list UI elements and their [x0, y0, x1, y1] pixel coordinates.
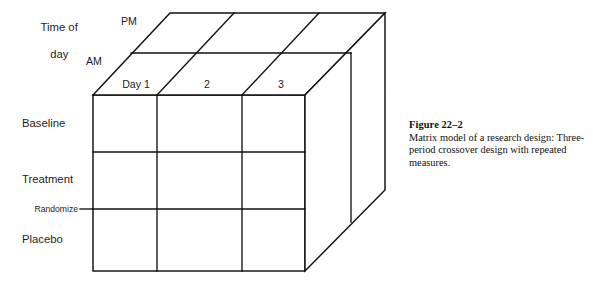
column-label-day-3: 3 [266, 78, 296, 90]
column-label-day-1: Day 1 [111, 78, 161, 90]
row-label-baseline: Baseline [22, 117, 65, 129]
time-of-day-line-1: Time of [41, 21, 78, 33]
figure-caption-title: Figure 22–2 [409, 119, 585, 132]
randomize-label: Randomize [10, 204, 78, 214]
figure-container: Time of day PM AM Day 1 2 3 Baseline Tre… [0, 0, 593, 294]
column-label-day-2: 2 [192, 78, 222, 90]
row-label-placebo: Placebo [22, 233, 63, 245]
am-label: AM [81, 55, 107, 67]
time-of-day-label: Time of day [22, 8, 84, 74]
front-face [93, 95, 305, 271]
row-label-treatment: Treatment [22, 173, 73, 185]
figure-caption: Figure 22–2 Matrix model of a research d… [409, 119, 585, 169]
figure-caption-body: Matrix model of a research design: Three… [409, 132, 585, 170]
time-of-day-line-2: day [50, 48, 68, 60]
pm-label: PM [116, 15, 142, 27]
